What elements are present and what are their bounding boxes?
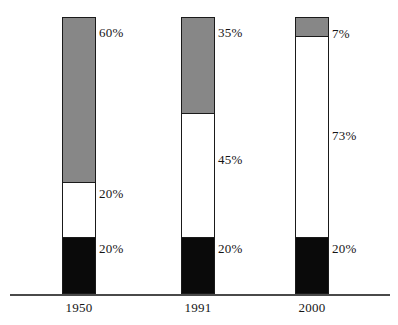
stacked-bar-chart: 60% 20% 20% 1950 35% 45% 20% 1991 7% 73%… — [0, 0, 398, 325]
bar-segment-1991-gray[interactable] — [182, 18, 214, 114]
bar-segment-1991-black[interactable] — [182, 238, 214, 293]
x-axis-label-1991: 1991 — [158, 300, 238, 316]
value-label-2000-black: 20% — [332, 241, 356, 257]
x-axis-label-2000: 2000 — [272, 300, 352, 316]
bar-segment-2000-white[interactable] — [296, 37, 328, 238]
value-label-2000-gray: 7% — [332, 26, 350, 42]
value-label-1991-gray: 35% — [218, 25, 242, 41]
bar-segment-2000-gray[interactable] — [296, 18, 328, 37]
value-label-1950-white: 20% — [99, 186, 123, 202]
bar-segment-1950-gray[interactable] — [63, 18, 95, 183]
x-axis-label-1950: 1950 — [39, 300, 119, 316]
bar-segment-1950-black[interactable] — [63, 238, 95, 293]
stacked-bar-1950[interactable] — [62, 17, 96, 294]
value-label-1950-gray: 60% — [99, 25, 123, 41]
bar-segment-1991-white[interactable] — [182, 114, 214, 238]
stacked-bar-1991[interactable] — [181, 17, 215, 294]
bar-segment-1950-white[interactable] — [63, 183, 95, 238]
value-label-1991-black: 20% — [218, 241, 242, 257]
value-label-2000-white: 73% — [332, 128, 356, 144]
value-label-1991-white: 45% — [218, 152, 242, 168]
value-label-1950-black: 20% — [99, 241, 123, 257]
x-axis-baseline — [10, 294, 390, 296]
stacked-bar-2000[interactable] — [295, 17, 329, 294]
bar-segment-2000-black[interactable] — [296, 238, 328, 293]
